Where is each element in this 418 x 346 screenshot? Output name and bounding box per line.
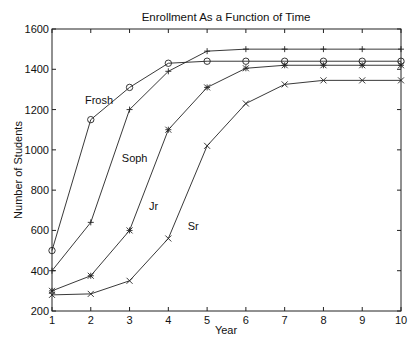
y-axis-label: Number of Students: [12, 121, 24, 219]
x-tick-label: 1: [49, 314, 55, 326]
y-tick-label: 1600: [25, 23, 49, 35]
series-label-jr: Jr: [149, 200, 159, 212]
x-tick-label: 8: [320, 314, 326, 326]
plus-marker: [243, 46, 249, 52]
plus-marker: [359, 46, 365, 52]
series-line: [52, 61, 401, 250]
plus-marker: [320, 46, 326, 52]
star-marker: [243, 65, 249, 71]
star-marker: [320, 62, 326, 68]
series-line: [52, 80, 401, 295]
x-axis: 12345678910: [49, 29, 407, 326]
x-tick-label: 9: [359, 314, 365, 326]
plot-area: [52, 29, 401, 311]
y-tick-label: 400: [31, 265, 49, 277]
series-label-frosh: Frosh: [85, 94, 113, 106]
x-tick-label: 2: [88, 314, 94, 326]
star-marker: [359, 62, 365, 68]
plot-frame: [52, 29, 401, 311]
y-tick-label: 200: [31, 305, 49, 317]
y-axis: 2004006008001000120014001600: [25, 23, 401, 317]
x-tick-label: 4: [165, 314, 171, 326]
series-frosh: [49, 58, 404, 254]
chart-title: Enrollment As a Function of Time: [142, 11, 311, 23]
x-axis-label: Year: [215, 324, 238, 336]
star-marker: [282, 62, 288, 68]
series-group: [49, 46, 404, 298]
star-marker: [204, 84, 210, 90]
y-tick-label: 1000: [25, 144, 49, 156]
star-marker: [127, 227, 133, 233]
x-tick-label: 5: [204, 314, 210, 326]
y-tick-label: 800: [31, 184, 49, 196]
x-tick-label: 10: [395, 314, 407, 326]
y-tick-label: 1400: [25, 63, 49, 75]
y-tick-label: 1200: [25, 104, 49, 116]
star-marker: [398, 62, 404, 68]
plus-marker: [204, 48, 210, 54]
line-chart: Enrollment As a Function of Time 1234567…: [0, 0, 418, 346]
series-line: [52, 49, 401, 271]
plus-marker: [282, 46, 288, 52]
x-marker: [243, 101, 249, 107]
x-tick-label: 3: [126, 314, 132, 326]
star-marker: [165, 127, 171, 133]
series-label-soph: Soph: [122, 152, 148, 164]
x-marker: [165, 235, 171, 241]
series-label-sr: Sr: [188, 220, 199, 232]
x-tick-label: 6: [243, 314, 249, 326]
x-marker: [127, 278, 133, 284]
x-marker: [204, 143, 210, 149]
x-tick-label: 7: [282, 314, 288, 326]
y-tick-label: 600: [31, 224, 49, 236]
plus-marker: [398, 46, 404, 52]
star-marker: [88, 273, 94, 279]
